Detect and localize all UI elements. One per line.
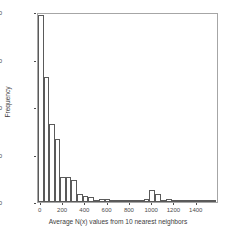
x-tick-mark	[129, 203, 130, 205]
y-axis-label: Frequency	[4, 72, 12, 132]
x-tick-mark	[173, 203, 174, 205]
y-tick-mark	[34, 108, 36, 109]
x-tick-mark	[107, 203, 108, 205]
y-tick-mark	[34, 13, 36, 14]
x-tick-label: 0	[38, 207, 41, 213]
x-tick-mark	[84, 203, 85, 205]
x-tick-mark	[62, 203, 63, 205]
x-tick-label: 200	[57, 207, 67, 213]
x-tick-mark	[40, 203, 41, 205]
x-tick-label: 400	[79, 207, 89, 213]
x-tick-label: 1400	[189, 207, 202, 213]
x-tick-mark	[196, 203, 197, 205]
x-tick-label: 800	[124, 207, 134, 213]
y-tick-mark	[34, 156, 36, 157]
x-tick-label: 600	[102, 207, 112, 213]
histogram-bar	[211, 200, 217, 202]
y-tick-mark	[34, 203, 36, 204]
y-tick-label: 5000	[0, 105, 2, 111]
x-tick-label: 1000	[144, 207, 157, 213]
plot-panel	[37, 13, 218, 203]
y-tick-label: 2500	[0, 153, 2, 159]
x-tick-mark	[151, 203, 152, 205]
y-tick-label: 7500	[0, 58, 2, 64]
x-tick-label: 1200	[167, 207, 180, 213]
histogram-figure: Frequency 025005000750010000 02004006008…	[0, 0, 236, 248]
bars-container	[38, 14, 217, 202]
y-tick-label: 0	[0, 200, 2, 206]
x-axis-label: Average N(x) values from 10 nearest neig…	[0, 218, 236, 226]
y-tick-label: 10000	[0, 10, 2, 16]
y-tick-mark	[34, 61, 36, 62]
